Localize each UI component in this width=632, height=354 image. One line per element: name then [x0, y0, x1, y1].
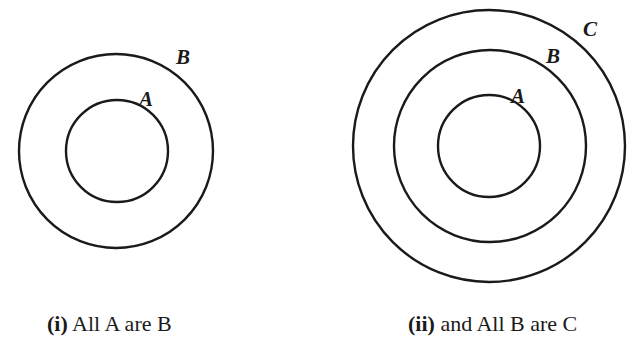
- set-b-circle: [394, 50, 586, 242]
- venn-diagrams: B A C B A: [0, 0, 632, 354]
- set-b-label: B: [545, 44, 560, 68]
- set-a-label: A: [137, 87, 153, 111]
- set-b-label: B: [175, 45, 190, 69]
- caption-text: All A are B: [68, 311, 172, 336]
- set-a-label: A: [509, 84, 525, 108]
- diagram-ii: C B A: [353, 10, 625, 282]
- set-c-label: C: [583, 17, 598, 41]
- caption-all-b-are-c: (ii) and All B are C: [408, 311, 577, 337]
- caption-number: (i): [47, 311, 68, 336]
- diagram-i: B A: [19, 45, 213, 248]
- set-a-circle: [438, 95, 540, 197]
- set-b-circle: [19, 54, 213, 248]
- caption-text: and All B are C: [435, 311, 577, 336]
- caption-number: (ii): [408, 311, 435, 336]
- caption-all-a-are-b: (i) All A are B: [47, 311, 172, 337]
- set-a-circle: [66, 100, 168, 202]
